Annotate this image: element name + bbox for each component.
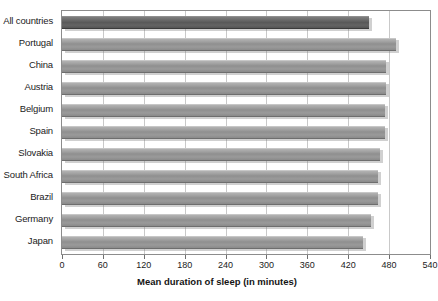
category-label-brazil: Brazil xyxy=(30,192,53,202)
category-axis-labels: All countriesPortugalChinaAustriaBelgium… xyxy=(0,10,57,255)
bar-all-countries xyxy=(62,16,369,29)
tick-label-480: 480 xyxy=(382,260,397,270)
bar-portugal xyxy=(62,38,396,51)
tick-label-180: 180 xyxy=(177,260,192,270)
tick-label-0: 0 xyxy=(59,260,64,270)
tick-360 xyxy=(307,255,308,259)
category-label-austria: Austria xyxy=(24,82,53,92)
category-label-germany: Germany xyxy=(15,214,53,224)
bar-south-africa xyxy=(62,170,378,183)
bar-row xyxy=(62,192,430,205)
tick-420 xyxy=(348,255,349,259)
tick-540 xyxy=(430,255,431,259)
category-label-all-countries: All countries xyxy=(3,16,53,26)
tick-label-540: 540 xyxy=(422,260,437,270)
bar-row xyxy=(62,60,430,73)
tick-0 xyxy=(62,255,63,259)
tick-label-240: 240 xyxy=(218,260,233,270)
tick-label-420: 420 xyxy=(341,260,356,270)
tick-480 xyxy=(389,255,390,259)
tick-label-60: 60 xyxy=(98,260,108,270)
tick-180 xyxy=(185,255,186,259)
bar-china xyxy=(62,60,386,73)
bar-germany xyxy=(62,214,371,227)
plot-area xyxy=(61,10,431,255)
bar-row xyxy=(62,16,430,29)
bar-row xyxy=(62,126,430,139)
category-label-spain: Spain xyxy=(29,126,53,136)
category-label-china: China xyxy=(29,60,53,70)
bar-slovakia xyxy=(62,148,380,161)
bar-brazil xyxy=(62,192,378,205)
bar-row xyxy=(62,214,430,227)
value-axis: 060120180240300360420480540 xyxy=(61,255,432,263)
bar-row xyxy=(62,104,430,117)
bar-row xyxy=(62,236,430,249)
bar-spain xyxy=(62,126,385,139)
bar-austria xyxy=(62,82,386,95)
category-label-slovakia: Slovakia xyxy=(18,148,53,158)
bar-japan xyxy=(62,236,363,249)
tick-240 xyxy=(226,255,227,259)
bar-row xyxy=(62,38,430,51)
x-axis-title: Mean duration of sleep (in minutes) xyxy=(0,276,434,287)
bar-row xyxy=(62,148,430,161)
category-label-belgium: Belgium xyxy=(20,104,53,114)
bar-row xyxy=(62,82,430,95)
category-label-portugal: Portugal xyxy=(19,38,53,48)
category-label-japan: Japan xyxy=(28,236,53,246)
bar-belgium xyxy=(62,104,385,117)
tick-120 xyxy=(144,255,145,259)
bar-row xyxy=(62,170,430,183)
tick-300 xyxy=(266,255,267,259)
tick-label-120: 120 xyxy=(136,260,151,270)
category-label-south-africa: South Africa xyxy=(4,170,53,180)
tick-label-360: 360 xyxy=(300,260,315,270)
tick-label-300: 300 xyxy=(259,260,274,270)
tick-60 xyxy=(103,255,104,259)
